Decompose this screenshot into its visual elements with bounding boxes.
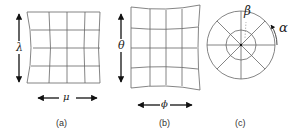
caption-b: (b) [159, 118, 170, 128]
beta-arrow [245, 22, 246, 38]
caption-a: (a) [56, 118, 67, 128]
lambda-label: λ [15, 41, 24, 54]
theta-label: θ [117, 39, 126, 52]
diagram-canvas [0, 0, 297, 136]
alpha-label: α [279, 20, 288, 35]
phi-label: ϕ [161, 98, 168, 109]
origin-dot [240, 44, 242, 46]
panel-b-grid [131, 5, 200, 90]
alpha-arrow [271, 25, 277, 45]
caption-c: (c) [235, 118, 246, 128]
mu-label: μ [63, 91, 70, 102]
panel-a-grid [27, 12, 100, 83]
beta-label: β [244, 4, 251, 18]
